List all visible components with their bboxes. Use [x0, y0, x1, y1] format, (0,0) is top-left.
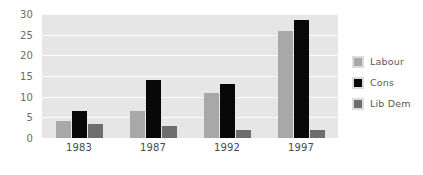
bar-lib-dem-1992[interactable] — [236, 130, 251, 138]
y-axis-tick-label: 25 — [20, 29, 33, 40]
bar-group — [278, 14, 325, 138]
legend-swatch-labour — [352, 56, 364, 68]
bar-labour-1997[interactable] — [278, 31, 293, 138]
legend-item[interactable]: Labour — [352, 52, 422, 71]
bar-group — [204, 14, 251, 138]
legend-item[interactable]: Cons — [352, 73, 422, 92]
bar-cons-1987[interactable] — [146, 80, 161, 138]
legend-swatch-lib-dem — [352, 98, 364, 110]
bar-labour-1983[interactable] — [56, 121, 71, 138]
y-axis-tick-label: 10 — [20, 91, 33, 102]
x-axis-tick-label: 1997 — [288, 142, 314, 153]
plot-area — [42, 14, 338, 138]
x-axis: 1983198719921997 — [42, 140, 338, 160]
y-axis-tick-label: 15 — [20, 71, 33, 82]
legend: LabourConsLib Dem — [352, 52, 422, 115]
legend-item[interactable]: Lib Dem — [352, 94, 422, 113]
bar-group — [56, 14, 103, 138]
x-axis-tick-label: 1987 — [140, 142, 166, 153]
x-axis-tick-label: 1992 — [214, 142, 240, 153]
bars-layer — [42, 14, 338, 138]
y-axis-tick-label: 20 — [20, 50, 33, 61]
bar-group — [130, 14, 177, 138]
bar-chart: 051015202530 1983198719921997 LabourCons… — [0, 0, 423, 175]
bar-labour-1987[interactable] — [130, 111, 145, 138]
bar-cons-1983[interactable] — [72, 111, 87, 138]
legend-item-label: Cons — [370, 77, 394, 88]
y-axis-tick-label: 0 — [26, 133, 33, 144]
legend-item-label: Labour — [370, 56, 404, 67]
legend-item-label: Lib Dem — [370, 98, 411, 109]
bar-cons-1997[interactable] — [294, 20, 309, 138]
y-axis-tick-label: 5 — [26, 112, 33, 123]
y-axis-tick-label: 30 — [20, 9, 33, 20]
bar-labour-1992[interactable] — [204, 93, 219, 138]
bar-cons-1992[interactable] — [220, 84, 235, 138]
bar-lib-dem-1987[interactable] — [162, 126, 177, 138]
legend-swatch-cons — [352, 77, 364, 89]
x-axis-tick-label: 1983 — [66, 142, 92, 153]
bar-lib-dem-1997[interactable] — [310, 130, 325, 138]
y-axis: 051015202530 — [0, 0, 38, 175]
bar-lib-dem-1983[interactable] — [88, 124, 103, 138]
